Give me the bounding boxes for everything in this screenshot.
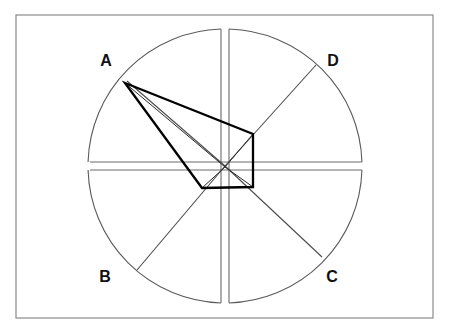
arc-bottom-right xyxy=(229,170,362,303)
spoke-to-B xyxy=(137,166,225,270)
vertex-label-d: D xyxy=(327,52,339,69)
vertex-label-c: C xyxy=(326,268,338,285)
spoke-to-C xyxy=(225,166,322,257)
vertex-label-b: B xyxy=(99,268,111,285)
figure-page: ADBC xyxy=(0,0,449,333)
apex-to-center xyxy=(125,83,225,167)
figure-svg: ADBC xyxy=(0,0,449,333)
geometry-figure: ADBC xyxy=(0,0,449,333)
arc-top-right xyxy=(229,29,362,162)
vertex-label-a: A xyxy=(100,52,112,69)
